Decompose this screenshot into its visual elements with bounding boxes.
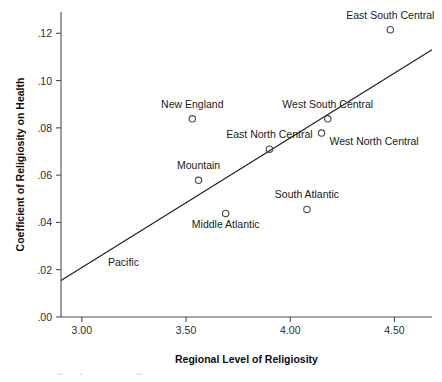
y-tick-label: .00 bbox=[37, 311, 52, 323]
figure-container: 3.003.504.004.50 .00.02.04.06.08.10.12 E… bbox=[0, 0, 442, 382]
regression-line bbox=[61, 50, 432, 281]
caption-strip: Effect of religiosity on health: regiona… bbox=[0, 373, 442, 382]
x-tick-label: 4.00 bbox=[280, 324, 301, 336]
point-marker[interactable] bbox=[222, 210, 228, 216]
data-point[interactable]: West South Central bbox=[282, 98, 373, 122]
point-label: South Atlantic bbox=[275, 188, 339, 200]
point-marker[interactable] bbox=[318, 130, 324, 136]
x-tick-label: 3.50 bbox=[176, 324, 197, 336]
data-point[interactable]: Middle Atlantic bbox=[192, 210, 260, 230]
point-label: East North Central bbox=[226, 128, 312, 140]
y-tick-label: .02 bbox=[37, 264, 52, 276]
point-label: Pacific bbox=[108, 256, 139, 268]
point-marker[interactable] bbox=[195, 177, 201, 183]
data-point[interactable]: Pacific bbox=[108, 256, 139, 268]
axes bbox=[61, 12, 432, 317]
point-label: East South Central bbox=[346, 9, 434, 21]
point-label: New England bbox=[161, 98, 224, 110]
data-point[interactable]: West North Central bbox=[318, 130, 418, 147]
x-axis-ticks: 3.003.504.004.50 bbox=[72, 317, 405, 336]
figure-caption: Effect of religiosity on health: regiona… bbox=[6, 373, 201, 375]
axis-titles: Regional Level of ReligiosityCoefficient… bbox=[14, 78, 318, 365]
trend-line bbox=[61, 50, 432, 281]
y-tick-label: .12 bbox=[37, 27, 52, 39]
data-points: East South CentralNew EnglandWest South … bbox=[108, 9, 434, 269]
y-tick-label: .08 bbox=[37, 122, 52, 134]
point-label: Middle Atlantic bbox=[192, 218, 260, 230]
x-tick-label: 3.00 bbox=[72, 324, 93, 336]
data-point[interactable]: Mountain bbox=[177, 159, 220, 183]
y-axis-title: Coefficient of Religiosity on Health bbox=[14, 78, 26, 252]
point-label: West North Central bbox=[330, 135, 419, 147]
y-axis-ticks: .00.02.04.06.08.10.12 bbox=[37, 27, 61, 323]
y-tick-label: .04 bbox=[37, 216, 52, 228]
scatter-plot: 3.003.504.004.50 .00.02.04.06.08.10.12 E… bbox=[0, 0, 442, 382]
data-point[interactable]: East South Central bbox=[346, 9, 434, 33]
point-marker[interactable] bbox=[304, 206, 310, 212]
point-marker[interactable] bbox=[189, 116, 195, 122]
data-point[interactable]: South Atlantic bbox=[275, 188, 339, 212]
point-marker[interactable] bbox=[325, 116, 331, 122]
point-label: Mountain bbox=[177, 159, 220, 171]
point-label: West South Central bbox=[282, 98, 373, 110]
data-point[interactable]: New England bbox=[161, 98, 224, 122]
x-axis-title: Regional Level of Religiosity bbox=[175, 353, 318, 365]
y-tick-label: .10 bbox=[37, 75, 52, 87]
y-tick-label: .06 bbox=[37, 169, 52, 181]
x-tick-label: 4.50 bbox=[384, 324, 405, 336]
point-marker[interactable] bbox=[387, 27, 393, 33]
data-point[interactable]: East North Central bbox=[226, 128, 312, 152]
